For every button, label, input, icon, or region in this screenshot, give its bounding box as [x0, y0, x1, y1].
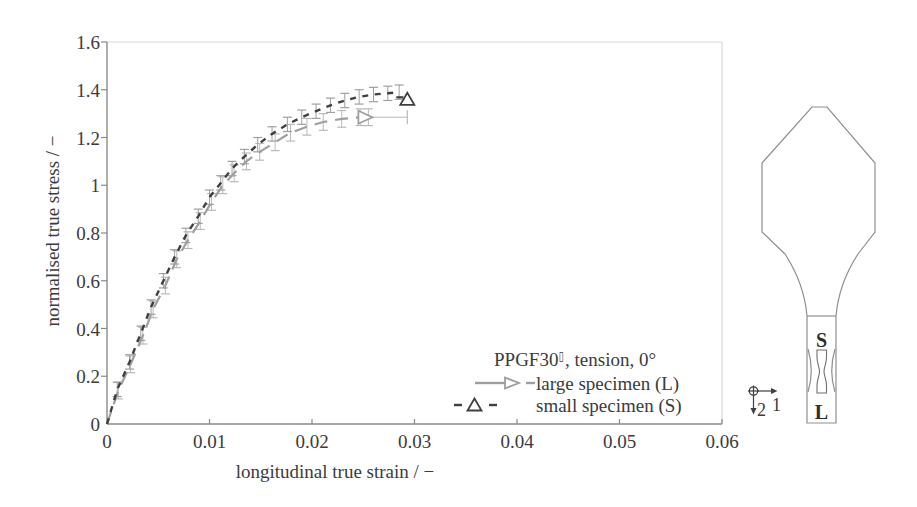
x-tick-label: 0.02 [284, 432, 340, 451]
legend-title-material: PPGF30 [494, 349, 558, 370]
x-tick-label: 0.03 [387, 432, 443, 451]
x-tick-label: 0 [79, 432, 135, 451]
small-specimen-outline [817, 350, 827, 393]
x-axis-label: longitudinal true strain / − [236, 461, 435, 483]
large-specimen-gauge-right-arc [832, 349, 835, 392]
large-specimen-label: L [815, 401, 828, 423]
large-specimen-gauge-left-arc [808, 349, 811, 392]
legend-title: PPGF30▯, tension, 0° [494, 350, 656, 369]
legend-title-conditions: , tension, 0° [565, 349, 656, 370]
axis-2-label: 2 [757, 400, 766, 420]
x-tick-label: 0.06 [694, 432, 750, 451]
y-axis-label: normalised true stress / − [42, 135, 64, 326]
small-specimen-label: S [816, 329, 827, 351]
x-tick-label: 0.05 [592, 432, 648, 451]
superscript-box-glyph: ▯ [559, 350, 564, 362]
small-specimen-marker-icon [452, 396, 514, 413]
figure-canvas: S L 1 2 00.010.020.030.040.050.06 00.20.… [0, 0, 917, 507]
y-tick-label: 1.4 [40, 81, 100, 100]
x-tick-label: 0.01 [182, 432, 238, 451]
y-tick-label: 1.6 [40, 33, 100, 52]
legend-entry-small-specimen: small specimen (S) [536, 396, 682, 415]
specimen-diagram: S L 1 2 [0, 0, 917, 507]
y-tick-label: 0 [40, 415, 100, 434]
legend-entry-large-specimen: large specimen (L) [536, 374, 679, 393]
large-specimen-marker-icon [474, 375, 536, 391]
x-tick-label: 0.04 [489, 432, 545, 451]
y-tick-label: 0.2 [40, 367, 100, 386]
axis-1-label: 1 [772, 395, 781, 415]
